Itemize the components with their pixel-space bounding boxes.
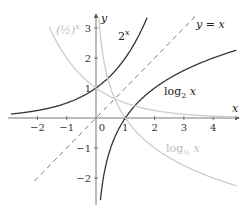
function-plot: x y −2−101234−2−1123 (½)x 2x y = x log2 …	[0, 0, 246, 217]
x-tick-label: 1	[122, 122, 128, 133]
curve--1-2-x	[49, 27, 237, 117]
x-tick-label: −2	[30, 122, 45, 133]
curves	[11, 16, 237, 200]
y-tick-label: −2	[76, 173, 91, 184]
label-2-pow-x: 2x	[118, 28, 130, 43]
x-tick-label: 3	[181, 122, 187, 133]
y-tick-label: 2	[85, 53, 91, 64]
x-axis-label: x	[232, 102, 239, 115]
y-axis-label: y	[100, 12, 108, 25]
label-log2-x: log2 x	[164, 85, 197, 100]
x-tick-label: 0	[99, 122, 105, 133]
y-tick-label: −1	[76, 143, 91, 154]
curve-log1-2-x	[99, 18, 237, 186]
label-y-equals-x: y = x	[195, 18, 225, 31]
x-tick-label: 4	[210, 122, 216, 133]
ticks: −2−101234−2−1123	[30, 23, 216, 184]
x-tick-label: −1	[59, 122, 74, 133]
label-log-half-x: log½ x	[166, 142, 200, 157]
y-tick-label: 3	[85, 23, 91, 34]
label-half-pow-x: (½)x	[56, 22, 80, 37]
x-tick-label: 2	[151, 122, 157, 133]
